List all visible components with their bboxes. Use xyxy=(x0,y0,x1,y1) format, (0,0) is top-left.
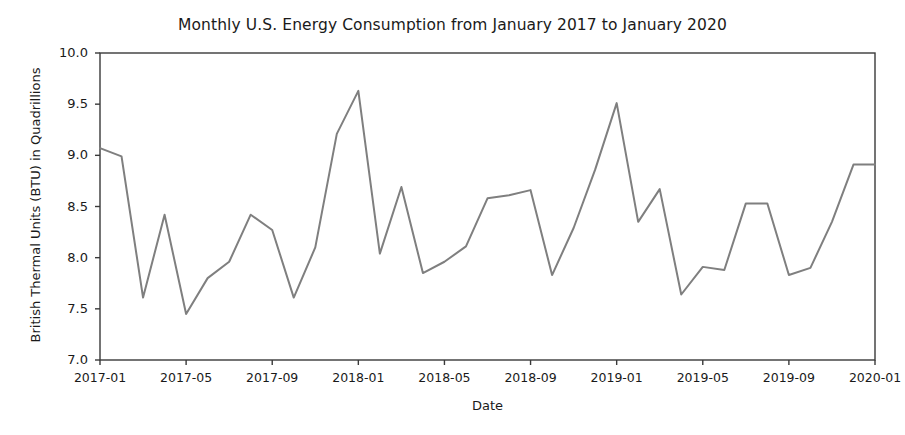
plot-area xyxy=(0,0,905,435)
x-tick-marks xyxy=(100,360,875,365)
axes-frame xyxy=(100,53,875,360)
chart-figure: Monthly U.S. Energy Consumption from Jan… xyxy=(0,0,905,435)
y-tick-marks xyxy=(95,53,100,360)
plot-border xyxy=(100,53,875,360)
x-axis-label: Date xyxy=(100,398,875,413)
